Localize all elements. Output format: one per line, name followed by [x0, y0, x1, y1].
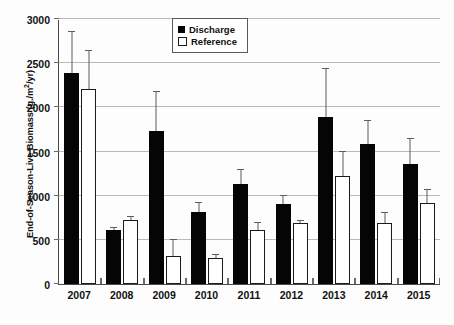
bar-reference-2013[interactable] [335, 20, 350, 284]
x-axis-tick-label-2010: 2010 [185, 289, 227, 301]
bar-reference-2007[interactable] [81, 20, 96, 284]
x-axis-tick-label-2015: 2015 [398, 289, 440, 301]
bar-discharge-2008[interactable] [106, 20, 121, 284]
y-axis-tick-label: 1500 [27, 147, 50, 159]
bar-discharge-2014[interactable] [360, 20, 375, 284]
legend-label: Reference [191, 36, 237, 47]
bar-discharge-2009[interactable] [149, 20, 164, 284]
error-bar [384, 212, 385, 223]
bar-rect [208, 258, 223, 284]
bar-rect [233, 184, 248, 284]
bar-discharge-2015[interactable] [403, 20, 418, 284]
bar-group-2008 [101, 20, 143, 284]
error-bar [240, 169, 241, 184]
bar-rect [106, 230, 121, 284]
error-bar [215, 254, 216, 258]
bar-rect [191, 212, 206, 284]
error-bar [88, 50, 89, 89]
bar-group-2010 [186, 20, 228, 284]
bar-discharge-2011[interactable] [233, 20, 248, 284]
error-bar [156, 91, 157, 132]
error-bar [130, 216, 131, 220]
x-axis-tick-label-2008: 2008 [100, 289, 142, 301]
gridline [59, 18, 440, 19]
error-bar [113, 227, 114, 231]
bar-rect [293, 223, 308, 284]
y-axis-tick-labels: 050010001500200025003000 [0, 20, 52, 285]
error-bar [300, 220, 301, 224]
bar-reference-2009[interactable] [166, 20, 181, 284]
legend-label: Discharge [189, 24, 235, 35]
bar-group-2014 [355, 20, 397, 284]
error-bar [325, 68, 326, 117]
bar-group-2011 [228, 20, 270, 284]
bar-reference-2011[interactable] [250, 20, 265, 284]
plot-area [58, 20, 440, 285]
bar-rect [64, 73, 79, 284]
error-bar [173, 239, 174, 256]
bar-rect [250, 230, 265, 284]
bar-discharge-2010[interactable] [191, 20, 206, 284]
bar-rect [360, 144, 375, 284]
x-axis-tick-label-2009: 2009 [143, 289, 185, 301]
bar-rect [123, 220, 138, 284]
bar-reference-2015[interactable] [420, 20, 435, 284]
bar-reference-2010[interactable] [208, 20, 223, 284]
x-axis-tick-label-2007: 2007 [58, 289, 100, 301]
error-bar [257, 222, 258, 230]
y-axis-tick-label: 3000 [27, 14, 50, 26]
x-axis-tick-label-2011: 2011 [228, 289, 270, 301]
bar-group-2012 [271, 20, 313, 284]
error-bar [198, 202, 199, 213]
bar-discharge-2013[interactable] [318, 20, 333, 284]
error-bar [71, 31, 72, 73]
legend-item-discharge[interactable]: Discharge [178, 24, 242, 35]
legend-swatch-discharge-icon [178, 26, 185, 33]
bar-discharge-2012[interactable] [276, 20, 291, 284]
error-bar [283, 195, 284, 204]
bar-rect [403, 164, 418, 284]
y-axis-tick-label: 0 [44, 279, 50, 291]
bar-rect [149, 131, 164, 284]
x-axis-tick-label-2014: 2014 [355, 289, 397, 301]
bar-rect [81, 89, 96, 284]
bar-group-2013 [313, 20, 355, 284]
error-bar [410, 138, 411, 164]
bar-group-2009 [144, 20, 186, 284]
bar-group-2015 [398, 20, 440, 284]
bar-rect [377, 223, 392, 284]
bar-reference-2008[interactable] [123, 20, 138, 284]
bar-rect [166, 256, 181, 284]
chart-legend: DischargeReference [172, 18, 248, 53]
x-axis-tick-label-2012: 2012 [270, 289, 312, 301]
bar-chart: End-of-Season-Live Biomass (g./m2/yr) 05… [0, 0, 454, 325]
error-bar [367, 120, 368, 145]
bar-groups [59, 20, 440, 284]
bar-rect [335, 176, 350, 284]
error-bar [427, 189, 428, 202]
legend-item-reference[interactable]: Reference [178, 36, 242, 47]
y-axis-tick-label: 2000 [27, 102, 50, 114]
y-axis-tick [54, 18, 59, 19]
y-axis-tick-label: 1000 [27, 191, 50, 203]
y-axis-tick-label: 2500 [27, 58, 50, 70]
bar-rect [276, 204, 291, 284]
y-axis-tick-label: 500 [32, 235, 50, 247]
bar-discharge-2007[interactable] [64, 20, 79, 284]
bar-rect [318, 117, 333, 284]
bar-reference-2014[interactable] [377, 20, 392, 284]
legend-swatch-reference-icon [178, 37, 187, 46]
x-axis-tick-labels: 200720082009201020112012201320142015 [58, 289, 440, 301]
bar-reference-2012[interactable] [293, 20, 308, 284]
bar-rect [420, 203, 435, 284]
bar-group-2007 [59, 20, 101, 284]
x-axis-tick-label-2013: 2013 [313, 289, 355, 301]
error-bar [342, 151, 343, 177]
